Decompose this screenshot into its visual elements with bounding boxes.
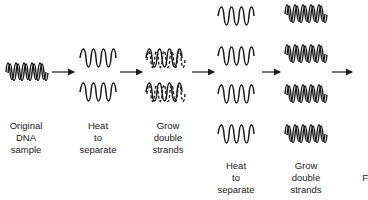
original-dna-helix	[6, 63, 48, 81]
double-strand-4	[285, 125, 327, 143]
label-original: Original DNA sample	[0, 120, 56, 156]
separated-strand-5	[218, 85, 254, 103]
separated-strand-3	[218, 7, 254, 25]
label-grow-1: Grow double strands	[138, 120, 198, 156]
double-strand-2	[285, 45, 327, 63]
separated-strand-4	[218, 47, 254, 65]
double-strand-3	[285, 85, 327, 103]
separated-strand-6	[218, 125, 254, 143]
label-cutoff: F	[328, 172, 368, 184]
growing-double-strand-2	[146, 83, 185, 102]
label-heat-2: Heat to separate	[206, 160, 266, 196]
growing-double-strand-1	[146, 49, 185, 68]
separated-strand-1	[80, 49, 116, 67]
label-grow-2: Grow double strands	[276, 160, 336, 196]
double-strand-1	[285, 5, 327, 23]
separated-strand-2	[80, 83, 116, 101]
label-heat-1: Heat to separate	[68, 120, 128, 156]
